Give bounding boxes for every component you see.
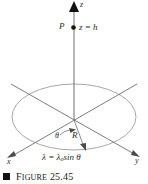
z-equals-h-label: z = h — [79, 23, 98, 32]
lambda-equation-tail: sin θ — [63, 152, 80, 162]
figure-25-45: z P z = h θ R λ = λosin θ x y FIGURE 25.… — [0, 0, 148, 184]
caption-square-bullet-icon — [3, 173, 10, 180]
x-axis-label: x — [7, 158, 11, 166]
caption-word-rest: IGURE — [22, 173, 47, 182]
lambda-equation-head: λ = λ — [42, 152, 60, 162]
z-axis-arrowhead — [69, 1, 79, 12]
figure-caption: FIGURE 25.45 — [0, 168, 148, 184]
point-p-label: P — [59, 22, 65, 31]
caption-number: 25.45 — [50, 171, 74, 182]
coordinate-diagram — [0, 0, 148, 168]
theta-label: θ — [55, 132, 59, 140]
radius-label: R — [72, 131, 78, 140]
lambda-equation-label: λ = λosin θ — [42, 153, 81, 162]
y-axis-label: y — [135, 157, 139, 165]
z-axis-label: z — [80, 1, 83, 9]
caption-text: FIGURE 25.45 — [16, 171, 73, 182]
point-p-marker — [71, 25, 76, 30]
